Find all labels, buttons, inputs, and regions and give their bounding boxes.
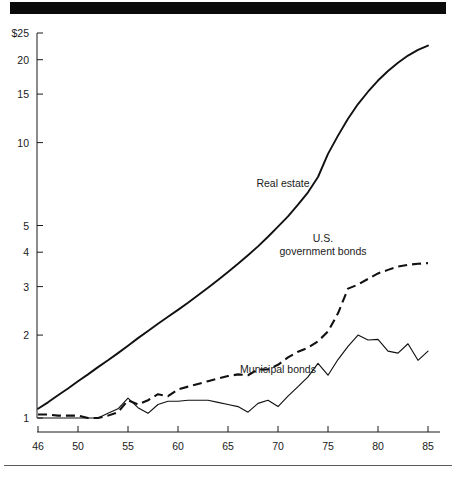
y-tick-label: 2 [23, 329, 29, 341]
series-label-u-s-government-bonds-line2: government bonds [280, 245, 367, 257]
x-tick-label: 75 [322, 440, 334, 452]
x-tick-label: 55 [122, 440, 134, 452]
y-tick-label: 10 [17, 137, 29, 149]
chart-series-group [38, 46, 428, 418]
x-tick-label: 70 [272, 440, 284, 452]
y-tick-label: $25 [11, 27, 29, 39]
y-tick-label: 5 [23, 220, 29, 232]
x-tick-label: 46 [32, 440, 44, 452]
y-tick-label: 15 [17, 88, 29, 100]
x-tick-label: 60 [172, 440, 184, 452]
series-label-real-estate: Real estate [256, 177, 309, 189]
x-tick-label: 80 [372, 440, 384, 452]
y-tick-label: 20 [17, 54, 29, 66]
series-annotations: Real estateU.S.government bondsMunicipal… [240, 177, 366, 375]
y-tick-label: 1 [23, 412, 29, 424]
series-label-u-s-government-bonds-line1: U.S. [313, 232, 333, 244]
series-line-real-estate [38, 46, 428, 409]
x-tick-label: 50 [72, 440, 84, 452]
y-tick-label: 4 [23, 246, 29, 258]
y-tick-label: 3 [23, 281, 29, 293]
x-tick-label: 85 [422, 440, 434, 452]
series-line-municipal-bonds [38, 335, 428, 418]
series-label-municipal-bonds: Municipal bonds [240, 363, 316, 375]
y-axis: $2520151054321 [11, 27, 43, 424]
chart-figure: $2520151054321 465055606570758085 Real e… [0, 0, 456, 482]
x-tick-label: 65 [222, 440, 234, 452]
x-axis: 465055606570758085 [32, 426, 440, 452]
series-line-u-s-government-bonds [38, 263, 428, 418]
